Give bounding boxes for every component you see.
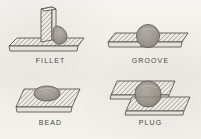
caption-fillet: FILLET bbox=[0, 57, 101, 64]
caption-plug: PLUG bbox=[100, 119, 201, 126]
panel-groove: GROOVE bbox=[100, 0, 201, 70]
panel-plug: PLUG bbox=[100, 69, 201, 139]
fillet-drawing bbox=[0, 0, 101, 62]
bead-plate-edge bbox=[16, 107, 72, 112]
bead-drawing bbox=[0, 69, 101, 124]
caption-groove: GROOVE bbox=[100, 57, 201, 64]
plug-drawing bbox=[100, 69, 201, 124]
groove-weld-nugget-texture bbox=[137, 25, 160, 48]
caption-bead: BEAD bbox=[0, 119, 101, 126]
plug-lower-plate-edge bbox=[125, 111, 184, 115]
plug-weld-plug-texture bbox=[135, 81, 161, 107]
panel-bead: BEAD bbox=[0, 69, 101, 139]
fillet-vertical-plate-face bbox=[41, 7, 52, 42]
fillet-weld-bead-texture bbox=[53, 26, 67, 44]
panel-fillet: FILLET bbox=[0, 0, 101, 70]
groove-drawing bbox=[100, 0, 201, 62]
groove-left-plate-edge bbox=[108, 42, 142, 47]
weld-types-figure: FILLET GROOVE bbox=[0, 0, 201, 139]
fillet-base-plate-edge bbox=[9, 46, 78, 51]
